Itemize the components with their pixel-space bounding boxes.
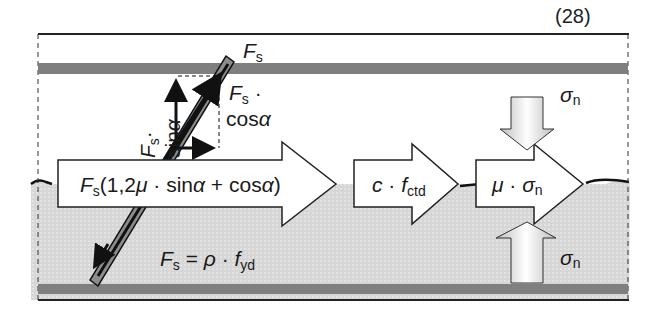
dowel-force-label: Fs(1,2μ · sinα + cosα) <box>80 173 281 199</box>
svg-text:Fs·: Fs· <box>136 131 162 158</box>
shear-friction-diagram: Fs Fs· sinα Fs · cosα σn σn Fs = ρ · fyd… <box>0 0 651 329</box>
fs-sin-label: Fs· sinα <box>136 118 184 158</box>
sigma-top-label: σn <box>560 83 580 108</box>
fs-cos-label-line1: Fs · <box>229 81 262 107</box>
svg-text:sinα: sinα <box>161 118 184 158</box>
rebar-band-bottom <box>38 284 628 294</box>
fs-cos-label-line2: cosα <box>226 107 272 130</box>
rebar-band-top <box>38 63 628 74</box>
sigma-arrow-down <box>500 97 554 150</box>
fs-top-label: Fs <box>243 39 263 65</box>
